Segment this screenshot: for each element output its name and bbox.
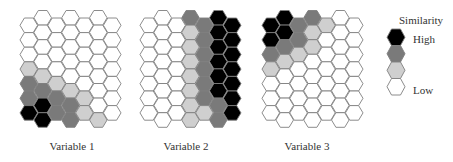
legend-swatches — [387, 29, 405, 95]
legend-hex-mid-high — [387, 46, 405, 63]
hex-cell — [345, 18, 363, 33]
hex-cell — [103, 76, 121, 91]
legend-hex-mid-low — [387, 62, 405, 79]
hex-maps — [20, 11, 363, 128]
hex-map-2 — [140, 11, 241, 128]
hex-cell — [223, 91, 241, 106]
som-component-planes — [0, 0, 453, 162]
hex-cell — [345, 91, 363, 106]
hex-cell — [223, 76, 241, 91]
hex-cell — [345, 76, 363, 91]
hex-cell — [345, 106, 363, 121]
hex-cell — [345, 47, 363, 62]
hex-cell — [223, 106, 241, 121]
hex-map-3 — [262, 11, 363, 128]
hex-cell — [103, 62, 121, 77]
hex-cell — [103, 47, 121, 62]
legend-low-label: Low — [413, 84, 433, 96]
hex-cell — [223, 18, 241, 33]
hex-cell — [223, 33, 241, 48]
hex-cell — [223, 47, 241, 62]
hex-map-1 — [20, 11, 121, 128]
legend-high-label: High — [413, 33, 435, 45]
hex-cell — [103, 91, 121, 106]
map-label-variable-3: Variable 3 — [285, 140, 330, 152]
hex-cell — [103, 18, 121, 33]
map-label-variable-2: Variable 2 — [164, 140, 209, 152]
hex-cell — [345, 33, 363, 48]
hex-cell — [345, 62, 363, 77]
hex-cell — [103, 33, 121, 48]
hex-cell — [223, 62, 241, 77]
map-label-variable-1: Variable 1 — [50, 140, 95, 152]
hex-cell — [103, 106, 121, 121]
legend-title: Similarity — [399, 14, 443, 26]
legend-hex-high — [387, 29, 405, 46]
legend-hex-low — [387, 79, 405, 96]
